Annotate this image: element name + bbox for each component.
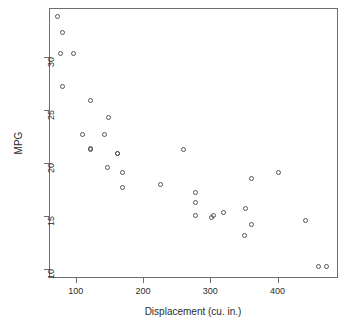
x-axis-tick [210, 278, 211, 283]
x-axis-title: Displacement (cu. in.) [145, 306, 242, 317]
data-point [58, 51, 63, 56]
data-point [193, 200, 198, 205]
y-axis-tick-label: 10 [46, 269, 56, 279]
scatter-plot-figure: 100200300400 1015202530 Displacement (cu… [0, 0, 346, 327]
data-point [158, 182, 163, 187]
y-axis-tick-label: 20 [46, 163, 56, 173]
data-point [324, 264, 329, 269]
y-axis-tick-label: 25 [46, 110, 56, 120]
x-axis-tick [76, 278, 77, 283]
x-axis-tick-label: 300 [203, 286, 218, 296]
data-point [88, 147, 93, 152]
data-point [276, 170, 281, 175]
data-point-layer [50, 9, 337, 277]
x-axis-tick-label: 400 [270, 286, 285, 296]
y-axis-tick-label: 15 [46, 216, 56, 226]
data-point [303, 218, 308, 223]
data-point [193, 190, 198, 195]
data-point [243, 206, 248, 211]
data-point [105, 165, 110, 170]
y-axis-tick-label: 30 [46, 57, 56, 67]
data-point [71, 51, 76, 56]
data-point [88, 98, 93, 103]
x-axis-tick-label: 100 [68, 286, 83, 296]
data-point [60, 84, 65, 89]
plot-frame [49, 8, 338, 278]
data-point [115, 151, 120, 156]
data-point [120, 185, 125, 190]
data-point [221, 210, 226, 215]
data-point [55, 14, 60, 19]
data-point [80, 132, 85, 137]
data-point [106, 115, 111, 120]
x-axis-tick-label: 200 [136, 286, 151, 296]
data-point [102, 132, 107, 137]
data-point [242, 233, 247, 238]
y-axis-title: MPG [13, 132, 24, 155]
data-point [193, 213, 198, 218]
data-point [249, 222, 254, 227]
data-point [60, 30, 65, 35]
x-axis-tick [278, 278, 279, 283]
data-point [209, 215, 214, 220]
data-point [249, 176, 254, 181]
data-point [181, 147, 186, 152]
x-axis-tick [143, 278, 144, 283]
data-point [120, 170, 125, 175]
data-point [316, 264, 321, 269]
